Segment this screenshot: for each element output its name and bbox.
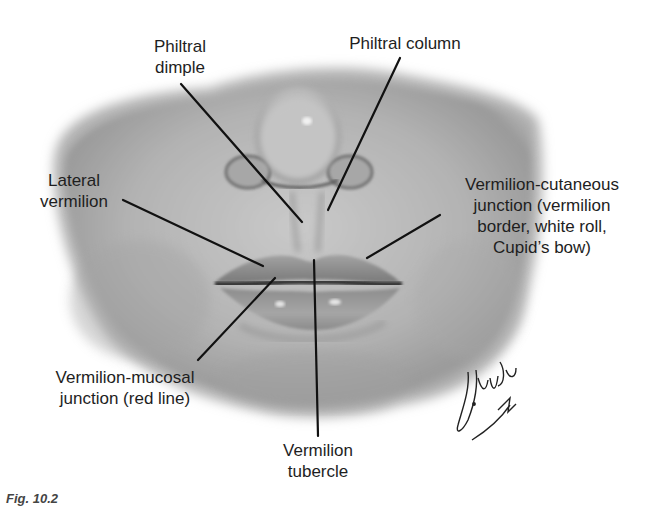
figure-caption: Fig. 10.2 (6, 491, 58, 506)
label-line: junction (vermilion (438, 195, 646, 216)
label-philtral-column: Philtral column (330, 33, 480, 54)
label-line: border, white roll, (438, 216, 646, 237)
label-line: Lateral (24, 170, 124, 191)
label-line: Vermilion-mucosal (30, 367, 220, 388)
label-vermilion-mucosal: Vermilion-mucosal junction (red line) (30, 367, 220, 409)
label-line: Vermilion (268, 440, 368, 461)
label-line: Philtral (124, 36, 236, 57)
label-line: Vermilion-cutaneous (438, 174, 646, 195)
label-line: Philtral column (330, 33, 480, 54)
lips (215, 255, 402, 340)
label-lateral-vermilion: Lateral vermilion (24, 170, 124, 212)
label-vermilion-tubercle: Vermilion tubercle (268, 440, 368, 482)
label-line: dimple (124, 57, 236, 78)
label-vermilion-cutaneous: Vermilion-cutaneous junction (vermilion … (438, 174, 646, 258)
label-line: tubercle (268, 461, 368, 482)
label-line: vermilion (24, 191, 124, 212)
label-philtral-dimple: Philtral dimple (124, 36, 236, 78)
label-line: junction (red line) (30, 388, 220, 409)
label-line: Cupid’s bow) (438, 237, 646, 258)
